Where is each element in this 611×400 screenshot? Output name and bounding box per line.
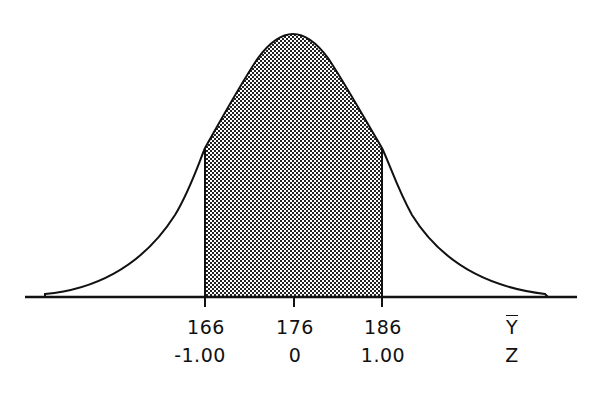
normal-curve-plot (0, 0, 611, 400)
row-label-z: Z (505, 344, 519, 366)
tick-label-y-166: 166 (187, 316, 225, 338)
row-label-y-bar: Y (506, 316, 518, 338)
tick-label-y-176: 176 (276, 316, 314, 338)
tick-label-z-neg1: -1.00 (174, 344, 226, 366)
tick-label-y-186: 186 (364, 316, 402, 338)
tick-label-z-pos1: 1.00 (361, 344, 405, 366)
shaded-area (205, 34, 382, 297)
tick-label-z-0: 0 (289, 344, 302, 366)
